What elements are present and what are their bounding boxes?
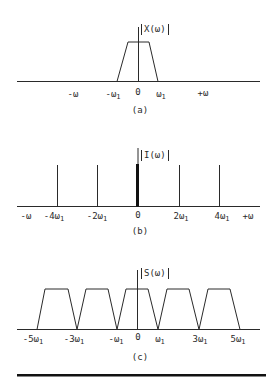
panel-c-trapezoid-5 bbox=[199, 289, 240, 330]
panel-c-trapezoid-2 bbox=[77, 289, 117, 330]
panel-b-impulse-dc bbox=[136, 164, 139, 207]
panel-c-trapezoid-1 bbox=[37, 289, 77, 330]
panel-a-tick-neg-omega: -ω bbox=[68, 89, 79, 99]
panel-c-y-label: S(ω) bbox=[141, 268, 169, 279]
panel-c-tick-neg3: -3ω1 bbox=[64, 334, 84, 347]
panel-c-caption: (c) bbox=[132, 352, 148, 362]
panel-c-tick-neg5: -5ω1 bbox=[23, 334, 43, 347]
panel-c-tick-pos3: 3ω1 bbox=[192, 334, 207, 347]
panel-c-tick-pos1: ω1 bbox=[155, 334, 165, 347]
panel-b-tick-pos-omega: +ω bbox=[243, 211, 254, 221]
panel-b-tick-neg-omega: -ω bbox=[21, 211, 32, 221]
panel-b-tick-neg4: -4ω1 bbox=[44, 211, 64, 224]
panel-b-caption: (b) bbox=[132, 226, 148, 236]
panel-a-y-label: X(ω) bbox=[141, 24, 169, 35]
panel-a-caption: (a) bbox=[132, 105, 148, 115]
panel-b-tick-pos4: 4ω1 bbox=[214, 211, 229, 224]
panel-a-tick-zero: 0 bbox=[135, 87, 140, 97]
panel-c-tick-neg1: -ω1 bbox=[108, 334, 123, 347]
panel-a-tick-pos-omega: +ω bbox=[198, 88, 209, 98]
panel-a-trapezoid bbox=[117, 42, 158, 82]
spectrum-diagram bbox=[0, 0, 272, 379]
panel-a-tick-neg-omega1: -ω1 bbox=[105, 89, 120, 102]
panel-b-y-label: I(ω) bbox=[141, 150, 169, 161]
panel-b-tick-pos2: 2ω1 bbox=[173, 211, 188, 224]
panel-c-tick-pos5: 5ω1 bbox=[230, 334, 245, 347]
panel-b-tick-zero: 0 bbox=[135, 210, 140, 220]
panel-a-tick-omega1: ω1 bbox=[156, 89, 166, 102]
bottom-rule bbox=[17, 374, 266, 377]
panel-c-trapezoid-4 bbox=[158, 289, 199, 330]
panel-c-tick-zero: 0 bbox=[135, 332, 140, 342]
panel-b-tick-neg2: -2ω1 bbox=[87, 211, 107, 224]
